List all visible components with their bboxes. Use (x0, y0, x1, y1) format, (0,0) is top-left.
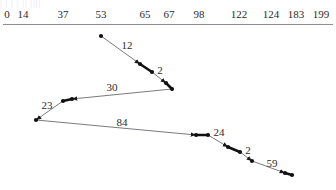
path-node-n11 (238, 150, 242, 154)
edge-label-n7-n8: 84 (117, 116, 128, 128)
path-node-n9 (206, 133, 210, 137)
path-node-n0 (99, 34, 103, 38)
path-node-n1 (138, 62, 142, 66)
path-node-n5 (70, 97, 74, 101)
path-segment-n1-n2 (140, 64, 152, 72)
edge-label-n0-n1: 12 (122, 39, 133, 51)
path-edges (36, 36, 292, 175)
path-node-n10 (226, 145, 230, 149)
edge-label-n2-n3: 2 (157, 64, 163, 76)
edge-label-n6-n7: 23 (42, 99, 53, 111)
path-node-n7 (34, 118, 38, 122)
path-segment-n4-n5 (72, 89, 172, 99)
path-node-n14 (290, 173, 294, 177)
path-node-n13 (283, 171, 287, 175)
path-node-n4 (170, 87, 174, 91)
edge-label-n4-n5: 30 (107, 81, 118, 93)
path-node-n12 (250, 159, 254, 163)
path-nodes (34, 34, 294, 177)
edge-label-n11-n12: 2 (245, 144, 251, 156)
path-segment-n0-n1 (101, 36, 140, 64)
path-plot (0, 0, 336, 190)
path-node-n3 (164, 81, 168, 85)
figure-canvas: | | | | || |||| 014375365679812212418319… (0, 0, 336, 190)
path-node-n6 (61, 99, 65, 103)
edge-label-n12-n13: 59 (267, 157, 278, 169)
path-node-n2 (150, 70, 154, 74)
path-node-n8 (194, 133, 198, 137)
edge-label-n9-n10: 24 (214, 126, 225, 138)
